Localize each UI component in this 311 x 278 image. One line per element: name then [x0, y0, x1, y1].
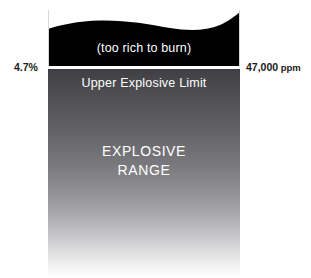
explosive-range-figure: (too rich to burn) Upper Explosive Limit… [0, 0, 311, 278]
diagram-panel: (too rich to burn) Upper Explosive Limit… [48, 10, 240, 278]
right-axis-unit: ppm [278, 62, 301, 73]
explosive-range-label: EXPLOSIVE RANGE [48, 142, 240, 180]
panel-right-rule [239, 10, 240, 68]
too-rich-region [48, 10, 240, 68]
right-axis-value: 47,000 [246, 61, 278, 73]
left-axis-value-label: 4.7% [14, 61, 38, 73]
right-axis-value-label: 47,000 ppm [246, 61, 301, 73]
explosive-range-label-line1: EXPLOSIVE [48, 142, 240, 161]
explosive-range-label-line2: RANGE [48, 161, 240, 180]
panel-left-rule [48, 10, 49, 68]
upper-explosive-limit-label: Upper Explosive Limit [48, 76, 240, 90]
too-rich-to-burn-label: (too rich to burn) [48, 41, 240, 55]
upper-explosive-limit-line [48, 66, 240, 69]
